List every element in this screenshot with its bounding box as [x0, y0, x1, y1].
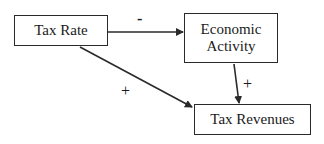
edge-sign-positive-vertical: +: [243, 76, 252, 92]
node-tax-revenues: Tax Revenues: [194, 104, 311, 135]
node-economic-activity: Economic Activity: [184, 13, 278, 63]
edge-sign-positive-diagonal: +: [121, 83, 130, 99]
node-economic-activity-label-line1: Economic: [201, 21, 262, 38]
node-tax-rate-label: Tax Rate: [34, 22, 88, 39]
node-tax-revenues-label: Tax Revenues: [210, 111, 294, 128]
edge-economic-activity-to-tax-revenues: [234, 64, 239, 103]
node-economic-activity-label-line2: Activity: [206, 38, 255, 55]
node-tax-rate: Tax Rate: [14, 15, 108, 46]
edge-sign-negative: -: [137, 11, 142, 27]
edge-taxrate-to-tax-revenues: [80, 47, 192, 107]
